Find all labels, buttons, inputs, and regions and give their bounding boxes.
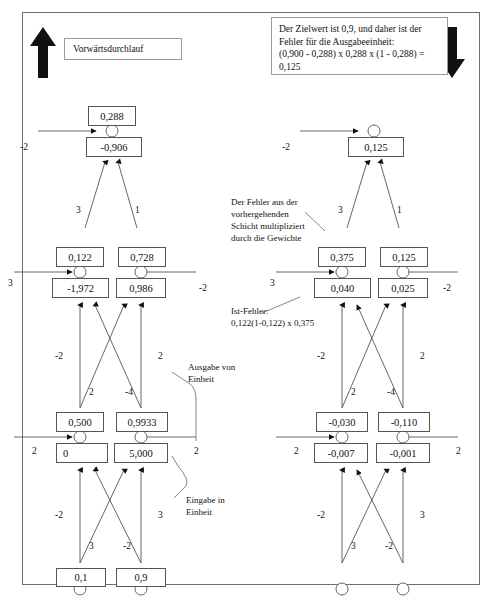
left-output-side-weight: -2: [20, 142, 28, 152]
left-hidden-side-weight-right: -2: [199, 283, 207, 293]
right-hidden-node-0-in-box: 0,040: [314, 278, 371, 298]
right-hidden-side-weight-right: -2: [443, 283, 451, 293]
left-source-edge-weight-2: -2: [123, 541, 131, 551]
left-hidden-side-weight-left: 3: [8, 278, 13, 288]
left-input-edge-weight-2: -4: [125, 387, 133, 397]
right-hidden-node-1-out-box: 0,125: [380, 247, 428, 267]
left-input-edge-weight-0: -2: [55, 351, 63, 361]
left-hidden-edge-weight-1: 1: [135, 205, 140, 215]
right-input-side-weight-right: 2: [456, 446, 461, 456]
output-of-unit-note: Ausgabe von Einheit: [188, 361, 260, 385]
target-error-note: Der Zielwert ist 0,9, und daher ist der …: [271, 17, 448, 75]
left-hidden-node-1-in-box: 0,986: [116, 278, 166, 298]
left-input-node-1-out-box: 0,9933: [116, 412, 168, 432]
right-input-edge-weight-3: 2: [420, 351, 425, 361]
left-hidden-node-0-in-box: -1,972: [52, 278, 109, 298]
left-source-edge-weight-0: -2: [55, 510, 63, 520]
left-output-node-in-box: -0,906: [86, 137, 142, 157]
left-hidden-edge-weight-0: 3: [76, 205, 81, 215]
right-input-edge-weight-0: -2: [317, 351, 325, 361]
right-source-edge-weight-0: -2: [317, 510, 325, 520]
right-input-node-1-in-box: -0,001: [376, 443, 430, 463]
left-input-edge-weight-3: 2: [158, 351, 163, 361]
left-source-node-0-box: 0,1: [56, 568, 106, 587]
right-input-node-0-out-box: -0,030: [316, 412, 368, 432]
forward-pass-title-label: Vorwärtsdurchlauf: [73, 44, 144, 54]
right-input-side-weight-left: 2: [294, 446, 299, 456]
left-output-node-out-box: 0,288: [88, 106, 136, 126]
right-source-edge-weight-3: 3: [420, 510, 425, 520]
right-input-node-1-out-box: -0,110: [378, 412, 430, 432]
right-source-edge-weight-2: -2: [385, 541, 393, 551]
right-hidden-node-0-out-box: 0,375: [318, 247, 366, 267]
actual-error-note: Ist-Fehler: 0,122(1-0,122) x 0,375: [231, 305, 347, 329]
input-to-unit-note: Eingabe in Einheit: [186, 494, 258, 518]
left-input-node-0-in-box: 0: [56, 443, 108, 463]
left-hidden-node-0-out-box: 0,122: [56, 247, 104, 267]
right-input-edge-weight-1: 2: [351, 387, 356, 397]
left-hidden-node-1-out-box: 0,728: [118, 247, 166, 267]
backprop-weights-note: Der Fehler aus der vorhergehenden Schich…: [231, 196, 327, 245]
left-source-edge-weight-1: 3: [89, 541, 94, 551]
right-hidden-node-1-in-box: 0,025: [378, 278, 428, 298]
left-input-node-1-in-box: 5,000: [114, 443, 168, 463]
left-input-side-weight-right: 2: [194, 446, 199, 456]
right-hidden-edge-weight-1: 1: [397, 205, 402, 215]
left-input-node-0-out-box: 0,500: [56, 412, 104, 432]
right-output-node-in-box: 0,125: [348, 137, 404, 157]
left-input-side-weight-left: 2: [32, 446, 37, 456]
right-hidden-edge-weight-0: 3: [338, 205, 343, 215]
right-input-node-0-in-box: -0,007: [314, 443, 368, 463]
left-source-edge-weight-3: 3: [158, 510, 163, 520]
right-hidden-side-weight-left: 3: [270, 278, 275, 288]
right-input-edge-weight-2: -4: [387, 387, 395, 397]
left-input-edge-weight-1: 2: [89, 387, 94, 397]
forward-pass-title-box: Vorwärtsdurchlauf: [64, 38, 182, 60]
left-source-node-1-box: 0,9: [116, 568, 166, 587]
right-source-edge-weight-1: 3: [351, 541, 356, 551]
diagram-canvas: Vorwärtsdurchlauf Der Zielwert ist 0,9, …: [0, 0, 504, 611]
right-output-side-weight: -2: [282, 142, 290, 152]
